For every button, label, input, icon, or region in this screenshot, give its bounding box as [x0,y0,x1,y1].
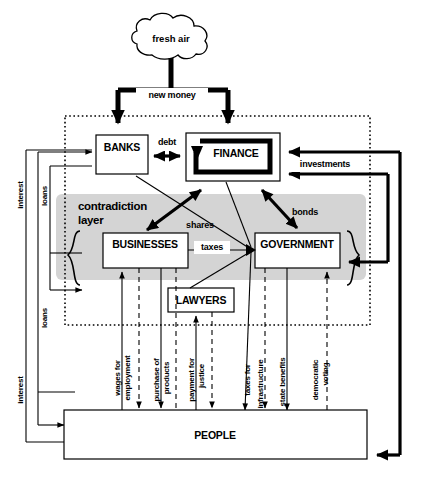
loans-top-label: loans [40,185,49,206]
node-people-label: PEOPLE [194,429,236,441]
node-finance[interactable]: FINANCE [186,133,280,181]
fresh-air-label: fresh air [152,33,190,44]
taxes-label: taxes [201,242,223,252]
democratic-label-line2: voting [321,362,330,385]
debt-label: debt [158,137,176,147]
contradiction-layer-line1: contradiction [78,200,147,212]
contradiction-layer-line2: layer [78,214,104,226]
interest-feedback-edge [26,150,92,442]
node-lawyers[interactable]: LAWYERS [168,288,234,312]
purchase-label-line2: products [162,361,171,394]
interest-top-label: interest [16,181,25,209]
fresh-air-cloud: fresh air [132,13,207,59]
bonds-label: bonds [292,207,318,217]
diagram-canvas: fresh air new money BANKS FINANCE debt B… [0,0,427,483]
shares-label: shares [186,220,214,230]
node-banks-label: BANKS [104,141,141,153]
investments-label: investments [300,159,351,169]
payment-justice-flow [196,312,212,410]
purchase-label-line1: purchase of [152,358,161,402]
taxes-infra-label-line2: infrastructure [256,359,265,409]
node-businesses-label: BUSINESSES [112,238,178,250]
node-people[interactable]: PEOPLE [64,410,367,459]
node-government-label: GOVERNMENT [260,238,334,250]
wages-label-line2: employment [123,355,132,401]
taxes-infra-label-line1: taxes for [243,364,252,396]
new-money-label: new money [148,90,195,100]
interest-bottom-label: interest [16,376,25,404]
loans-bottom-label: loans [40,307,49,328]
node-banks[interactable]: BANKS [96,135,148,174]
state-benefits-label: state benefits [278,357,287,407]
node-businesses[interactable]: BUSINESSES [103,233,188,268]
debt-edge: debt [154,137,180,156]
democratic-label-line1: democratic [311,359,320,400]
payment-justice-label-line1: payment for [187,358,196,402]
node-finance-label: FINANCE [213,147,258,159]
wages-label-line1: wages for [113,360,122,397]
node-government[interactable]: GOVERNMENT [255,233,340,268]
payment-justice-label-line2: justice [197,363,206,389]
node-lawyers-label: LAWYERS [176,294,227,306]
